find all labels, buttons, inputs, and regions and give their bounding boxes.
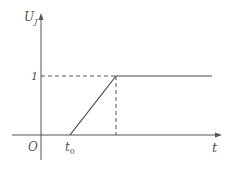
y-axis-arrow-icon bbox=[39, 13, 44, 20]
diagram-canvas: UJ 1 O t0 t bbox=[0, 0, 232, 169]
function-curve bbox=[70, 76, 212, 135]
origin-label: O bbox=[28, 140, 38, 154]
x-axis-label: t bbox=[212, 140, 218, 155]
t0-label: t0 bbox=[65, 140, 75, 156]
level-label: 1 bbox=[31, 70, 38, 83]
y-axis-label: UJ bbox=[24, 10, 38, 26]
x-axis-arrow-icon bbox=[215, 133, 222, 138]
